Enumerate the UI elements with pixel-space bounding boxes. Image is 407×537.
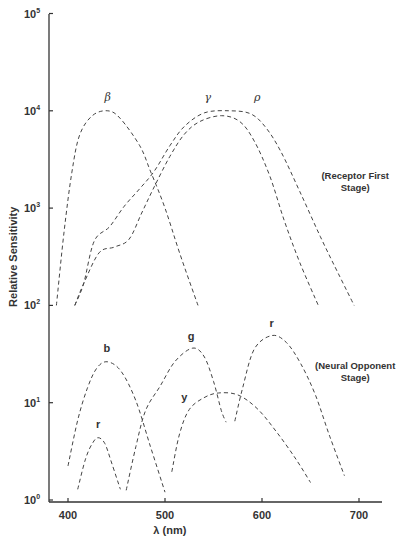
x-tick-label: 400	[59, 509, 77, 521]
curve-g-5	[126, 348, 226, 490]
x-tick-label: 600	[253, 509, 271, 521]
x-axis-title: λ (nm)	[153, 524, 186, 536]
curve-label-r: r	[96, 418, 101, 430]
curve-label-g: g	[188, 330, 195, 342]
curve-label-r: r	[270, 317, 275, 329]
curve-beta-0	[56, 111, 198, 306]
curve-rho-2	[75, 111, 354, 306]
curve-label-rho: ρ	[253, 91, 261, 104]
curve-b-3	[68, 362, 165, 493]
curve-gamma-1	[75, 116, 318, 306]
curve-label-y: y	[181, 391, 188, 403]
curve-labels: βγρbrgyr	[96, 91, 275, 430]
curve-r-7	[235, 335, 345, 475]
y-tick-label: 102	[24, 298, 40, 311]
y-tick-label: 104	[24, 104, 40, 117]
curve-r-4	[78, 438, 121, 490]
y-axis-title: Relative Sensitivity	[7, 206, 19, 307]
curve-y-6	[172, 393, 311, 483]
curve-label-beta: β	[104, 91, 111, 104]
x-tick-label: 500	[156, 509, 174, 521]
y-tick-label: 105	[24, 7, 40, 20]
y-tick-label: 100	[24, 493, 40, 506]
x-tick-label: 700	[350, 509, 368, 521]
stage-annotation: (Receptor FirstStage)	[321, 170, 389, 193]
annotations: (Receptor FirstStage)(Neural OpponentSta…	[315, 170, 396, 383]
curves	[56, 111, 354, 493]
curve-label-b: b	[103, 342, 110, 354]
y-tick-label: 101	[24, 396, 40, 409]
y-tick-label: 103	[24, 201, 40, 214]
stage-annotation: (Neural OpponentStage)	[315, 360, 396, 383]
curve-label-gamma: γ	[204, 91, 211, 104]
chart: 100101102103104105 400500600700 Relative…	[0, 0, 407, 537]
